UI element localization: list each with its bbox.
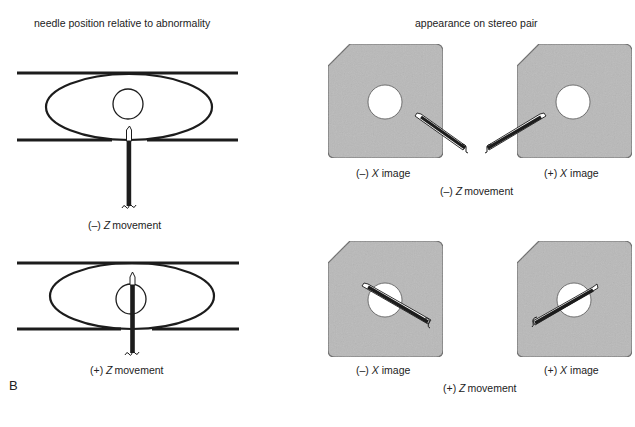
abnormality-circle xyxy=(113,89,143,119)
caption-minus-x-image-bottom: (–) Ximage xyxy=(356,364,410,376)
axis: X xyxy=(560,167,567,179)
heading-stereo-pair: appearance on stereo pair xyxy=(415,17,538,29)
sign: (+) xyxy=(443,382,456,394)
stereo-image-plus-x-top xyxy=(485,44,632,158)
sign: (–) xyxy=(356,364,369,376)
axis: Z xyxy=(106,364,112,376)
caption-plus-z-movement-left: (+) Zmovement xyxy=(90,364,164,376)
caption-plus-x-image-top: (+) Ximage xyxy=(544,167,599,179)
abnormality-circle xyxy=(556,85,590,119)
abnormality-circle xyxy=(368,85,402,119)
needle xyxy=(122,126,136,208)
caption-minus-x-image-top: (–) Ximage xyxy=(356,167,410,179)
word: movement xyxy=(467,382,516,394)
axis: X xyxy=(560,364,567,376)
heading-needle-position: needle position relative to abnormality xyxy=(34,17,210,29)
sign: (–) xyxy=(440,185,453,197)
word: image xyxy=(382,364,411,376)
breast-schematic-minus-z xyxy=(17,73,238,208)
caption-minus-z-movement-left: (–) Zmovement xyxy=(88,219,161,231)
word: movement xyxy=(114,364,163,376)
stereo-image-minus-x-top xyxy=(328,44,468,158)
word: image xyxy=(382,167,411,179)
word: movement xyxy=(464,185,513,197)
breast-schematic-plus-z xyxy=(17,263,239,355)
axis: X xyxy=(372,167,379,179)
caption-minus-z-movement-right: (–) Zmovement xyxy=(440,185,513,197)
sign: (–) xyxy=(88,219,101,231)
word: movement xyxy=(112,219,161,231)
axis: Z xyxy=(459,382,465,394)
sign: (+) xyxy=(90,364,103,376)
caption-plus-z-movement-right: (+) Zmovement xyxy=(443,382,517,394)
axis: X xyxy=(372,364,379,376)
stereo-image-plus-x-bottom xyxy=(517,241,632,357)
axis: Z xyxy=(104,219,110,231)
sign: (+) xyxy=(544,167,557,179)
stereotactic-diagram xyxy=(0,0,635,427)
panel-letter: B xyxy=(9,378,18,393)
sign: (+) xyxy=(544,364,557,376)
word: image xyxy=(570,167,599,179)
stereo-image-minus-x-bottom xyxy=(328,241,443,357)
axis: Z xyxy=(456,185,462,197)
caption-plus-x-image-bottom: (+) Ximage xyxy=(544,364,599,376)
word: image xyxy=(570,364,599,376)
sign: (–) xyxy=(356,167,369,179)
